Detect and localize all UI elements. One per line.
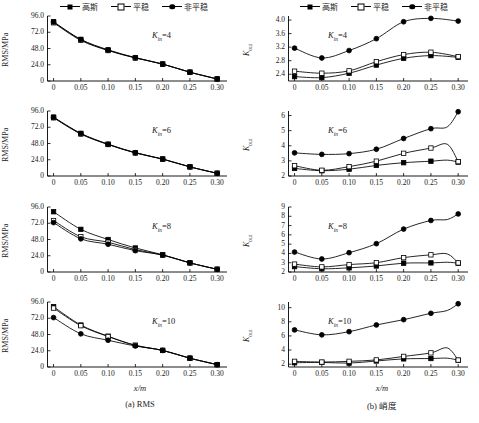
data-point bbox=[456, 358, 460, 362]
annotation-kin: Kin=10 bbox=[152, 316, 175, 328]
chart-panel-rms-kin8 bbox=[47, 207, 227, 272]
data-point bbox=[347, 48, 352, 53]
data-point bbox=[401, 136, 406, 141]
data-point bbox=[401, 354, 405, 358]
axis-spines bbox=[48, 207, 228, 272]
plot-area-kurt-kin4 bbox=[288, 16, 470, 83]
data-point bbox=[188, 70, 193, 75]
x-tick-label: 0.20 bbox=[150, 178, 176, 187]
y-tick-label: 48.0 bbox=[13, 330, 44, 339]
y-tick-label: 6 bbox=[254, 230, 285, 239]
x-tick-label: 0.30 bbox=[445, 369, 471, 378]
legend-label: 平稳 bbox=[133, 1, 149, 12]
data-point bbox=[78, 236, 83, 241]
data-point bbox=[292, 164, 296, 168]
x-tick-label: 0.15 bbox=[363, 274, 389, 283]
y-tick-label: 72.0 bbox=[13, 218, 44, 227]
y-tick-label: 0 bbox=[13, 76, 44, 85]
y-axis-title: RMS/MPa bbox=[1, 20, 10, 79]
x-tick-label: 0 bbox=[41, 369, 67, 378]
legend-label: 非平稳 bbox=[424, 1, 448, 12]
y-tick-label: 48.0 bbox=[13, 139, 44, 148]
plot-area-rms-kin10 bbox=[47, 302, 229, 369]
data-point bbox=[374, 163, 378, 167]
data-point bbox=[292, 46, 297, 51]
y-tick-label: 5 bbox=[254, 239, 285, 248]
series-line-平稳 bbox=[54, 23, 218, 79]
legend-right: 高斯平稳非平稳 bbox=[300, 1, 448, 12]
x-tick-label: 0.30 bbox=[445, 83, 471, 92]
x-tick-label: 0.05 bbox=[68, 83, 94, 92]
data-point bbox=[51, 115, 56, 120]
data-point bbox=[51, 315, 56, 320]
data-point bbox=[429, 311, 434, 316]
data-point bbox=[401, 160, 405, 164]
y-tick-label: 3.6 bbox=[254, 29, 285, 38]
caption-a: (a) RMS bbox=[110, 399, 170, 409]
y-tick-label: 5 bbox=[254, 126, 285, 135]
y-tick-label: 24.0 bbox=[13, 155, 44, 164]
y-tick-label: 3 bbox=[254, 258, 285, 267]
x-tick-label: 0.05 bbox=[309, 83, 335, 92]
data-point bbox=[78, 131, 83, 136]
data-point bbox=[401, 151, 405, 155]
annotation-kin: Kin=4 bbox=[328, 30, 347, 42]
data-point bbox=[51, 210, 55, 214]
data-point bbox=[456, 212, 461, 217]
y-tick-label: 6 bbox=[254, 111, 285, 120]
y-tick-label: 0 bbox=[13, 267, 44, 276]
y-tick-label: 2 bbox=[254, 171, 285, 180]
x-tick-label: 0.15 bbox=[363, 83, 389, 92]
x-tick-label: 0 bbox=[41, 83, 67, 92]
series-line-高斯 bbox=[54, 22, 218, 79]
x-tick-label: 0.30 bbox=[204, 83, 230, 92]
annotation-kin: Kin=10 bbox=[328, 316, 351, 328]
legend-item-2: 非平稳 bbox=[162, 1, 208, 12]
legend-swatch bbox=[351, 6, 371, 7]
plot-area-kurt-kin6 bbox=[288, 111, 470, 178]
x-tick-label: 0 bbox=[282, 178, 308, 187]
data-point bbox=[215, 171, 220, 176]
chart-panel-kurt-kin8 bbox=[288, 207, 468, 272]
y-tick-label: 4 bbox=[254, 248, 285, 257]
data-point bbox=[79, 323, 83, 327]
x-tick-label: 0.05 bbox=[309, 274, 335, 283]
data-point bbox=[51, 306, 55, 310]
plot-area-rms-kin8 bbox=[47, 207, 229, 274]
y-axis-title: RMS/MPa bbox=[1, 115, 10, 174]
x-tick-label: 0.25 bbox=[177, 369, 203, 378]
data-point bbox=[374, 60, 378, 64]
legend-item-0: 高斯 bbox=[60, 1, 98, 12]
data-point bbox=[347, 164, 351, 168]
x-tick-label: 0.25 bbox=[418, 369, 444, 378]
legend-item-1: 平稳 bbox=[351, 1, 389, 12]
y-tick-label: 4 bbox=[254, 345, 285, 354]
x-tick-label: 0.20 bbox=[150, 83, 176, 92]
data-point bbox=[401, 261, 405, 265]
data-point bbox=[215, 362, 220, 367]
annotation-kin: Kin=6 bbox=[328, 125, 347, 137]
legend-swatch bbox=[300, 6, 320, 7]
data-point bbox=[292, 74, 296, 78]
data-point bbox=[78, 37, 83, 42]
data-point bbox=[429, 146, 433, 150]
x-tick-label: 0.30 bbox=[204, 274, 230, 283]
data-point bbox=[188, 356, 193, 361]
x-tick-label: 0.25 bbox=[177, 83, 203, 92]
data-point bbox=[347, 250, 352, 255]
y-axis-title: Kout bbox=[242, 32, 253, 67]
data-point bbox=[429, 126, 434, 131]
x-tick-label: 0.20 bbox=[150, 369, 176, 378]
legend-label: 高斯 bbox=[82, 1, 98, 12]
series-line-高斯 bbox=[54, 117, 218, 173]
data-point bbox=[374, 241, 379, 246]
data-point bbox=[106, 242, 111, 247]
x-tick-label: 0.10 bbox=[95, 274, 121, 283]
data-point bbox=[374, 36, 379, 41]
data-point bbox=[319, 257, 324, 262]
data-point bbox=[401, 19, 406, 24]
data-point bbox=[106, 48, 111, 53]
caption-b: (b) 峭度 bbox=[352, 399, 412, 411]
axis-spines bbox=[48, 302, 228, 367]
data-point bbox=[320, 71, 324, 75]
